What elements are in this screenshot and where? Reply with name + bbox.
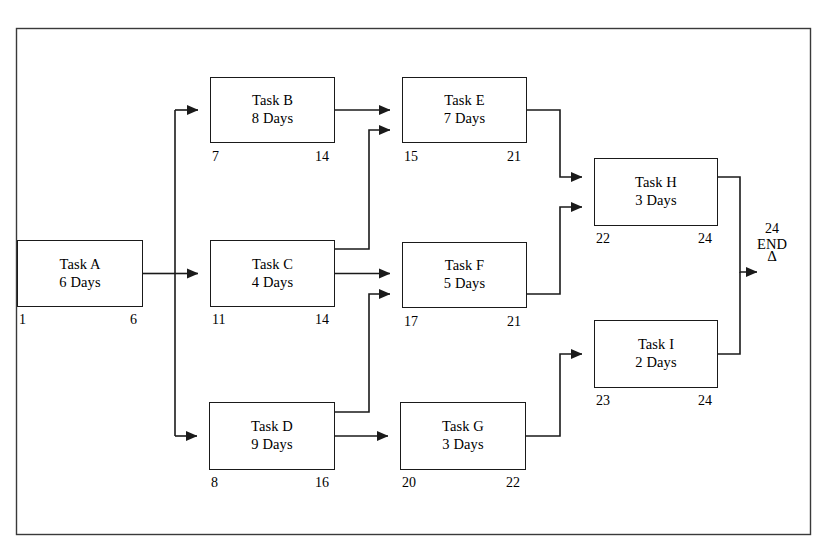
- edge-c-e: [335, 130, 390, 249]
- node-c-name: Task C: [252, 256, 293, 274]
- node-a-name: Task A: [59, 256, 100, 274]
- node-g-early-finish: 22: [488, 476, 520, 490]
- end-triangle-icon: Δ: [749, 249, 795, 265]
- node-task-e[interactable]: Task E 7 Days: [402, 77, 527, 143]
- node-c-early-start: 11: [212, 313, 225, 327]
- node-g-duration: 3 Days: [442, 436, 483, 454]
- edge-g-i: [526, 354, 582, 436]
- node-d-early-finish: 16: [297, 476, 329, 490]
- node-h-early-finish: 24: [680, 232, 712, 246]
- node-f-early-finish: 21: [489, 315, 521, 329]
- node-b-duration: 8 Days: [252, 110, 293, 128]
- node-f-name: Task F: [445, 257, 484, 275]
- edge-e-h: [527, 110, 582, 177]
- network-diagram: Task A 6 Days 1 6 Task B 8 Days 7 14 Tas…: [0, 0, 822, 548]
- node-d-early-start: 8: [211, 476, 218, 490]
- node-c-early-finish: 14: [297, 313, 329, 327]
- node-task-f[interactable]: Task F 5 Days: [402, 242, 527, 308]
- node-e-early-start: 15: [404, 150, 418, 164]
- node-i-duration: 2 Days: [635, 354, 676, 372]
- edge-i-end: [718, 272, 740, 354]
- node-a-early-finish: 6: [105, 313, 137, 327]
- node-e-early-finish: 21: [489, 150, 521, 164]
- node-e-name: Task E: [444, 92, 484, 110]
- edge-d-f: [335, 294, 390, 412]
- node-i-name: Task I: [638, 336, 674, 354]
- node-task-h[interactable]: Task H 3 Days: [594, 158, 718, 226]
- node-task-g[interactable]: Task G 3 Days: [400, 402, 526, 470]
- node-task-a[interactable]: Task A 6 Days: [17, 240, 143, 307]
- node-task-d[interactable]: Task D 9 Days: [209, 402, 335, 470]
- node-task-c[interactable]: Task C 4 Days: [210, 240, 335, 307]
- node-h-duration: 3 Days: [635, 192, 676, 210]
- node-a-early-start: 1: [19, 313, 26, 327]
- node-h-early-start: 22: [596, 232, 610, 246]
- node-f-early-start: 17: [404, 315, 418, 329]
- node-f-duration: 5 Days: [444, 275, 485, 293]
- end-marker: 24 END Δ: [749, 222, 795, 265]
- node-i-early-start: 23: [596, 394, 610, 408]
- node-c-duration: 4 Days: [252, 274, 293, 292]
- node-b-name: Task B: [252, 92, 293, 110]
- node-task-b[interactable]: Task B 8 Days: [210, 77, 335, 143]
- node-g-early-start: 20: [402, 476, 416, 490]
- node-h-name: Task H: [635, 174, 677, 192]
- node-a-duration: 6 Days: [59, 274, 100, 292]
- edge-f-h: [527, 207, 582, 294]
- node-b-early-finish: 14: [297, 150, 329, 164]
- node-e-duration: 7 Days: [444, 110, 485, 128]
- node-task-i[interactable]: Task I 2 Days: [594, 320, 718, 388]
- node-b-early-start: 7: [212, 150, 219, 164]
- node-g-name: Task G: [442, 418, 484, 436]
- end-marker-number: 24: [749, 222, 795, 237]
- node-i-early-finish: 24: [680, 394, 712, 408]
- node-d-name: Task D: [251, 418, 293, 436]
- node-d-duration: 9 Days: [251, 436, 292, 454]
